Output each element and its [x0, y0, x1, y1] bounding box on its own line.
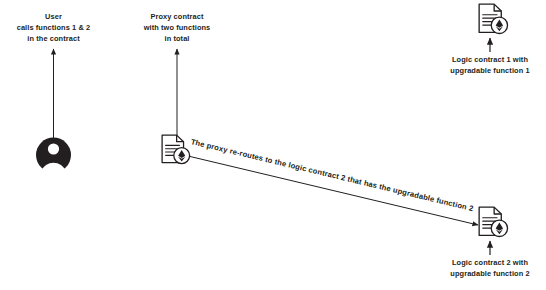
user-label-line-3: in the contract: [0, 33, 107, 44]
proxy-contract-label-line-2: with two functions: [124, 22, 230, 33]
proxy-contract-label-line-1: Proxy contract: [124, 11, 230, 22]
user-label: User calls functions 1 & 2 in the contra…: [0, 11, 107, 44]
proxy-contract-label: Proxy contract with two functions in tot…: [124, 11, 230, 44]
user-label-line-1: User: [0, 11, 107, 22]
logic-contract-2-label-line-1: Logic contract 2 with: [434, 257, 546, 268]
logic-contract-2-label-line-2: upgradable function 2: [434, 268, 546, 279]
logic-contract-2-label: Logic contract 2 with upgradable functio…: [434, 257, 546, 279]
diagram-canvas: User calls functions 1 & 2 in the contra…: [0, 0, 546, 290]
proxy-contract-label-line-3: in total: [124, 33, 230, 44]
logic-contract-1-label: Logic contract 1 with upgradable functio…: [434, 54, 546, 76]
logic-contract-1-label-line-2: upgradable function 1: [434, 65, 546, 76]
user-label-line-2: calls functions 1 & 2: [0, 22, 107, 33]
logic-contract-1-label-line-1: Logic contract 1 with: [434, 54, 546, 65]
